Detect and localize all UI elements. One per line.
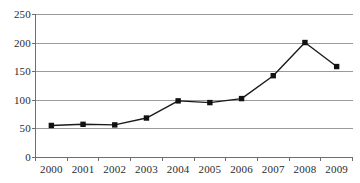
x-axis-label-2002: 2002 [99, 164, 131, 175]
x-axis-label-2007: 2007 [257, 164, 289, 175]
x-axis-label-2004: 2004 [162, 164, 194, 175]
x-axis-label-2003: 2003 [130, 164, 162, 175]
x-axis-label-2009: 2009 [321, 164, 353, 175]
line-chart: 050100150200250 200020012002200320042005… [0, 0, 360, 183]
x-axis-label-2008: 2008 [289, 164, 321, 175]
x-axis-label-2001: 2001 [67, 164, 99, 175]
x-axis-label-2006: 2006 [226, 164, 258, 175]
x-axis-label-2000: 2000 [35, 164, 67, 175]
x-axis-tick-labels: 2000200120022003200420052006200720082009 [0, 0, 360, 183]
x-axis-label-2005: 2005 [194, 164, 226, 175]
